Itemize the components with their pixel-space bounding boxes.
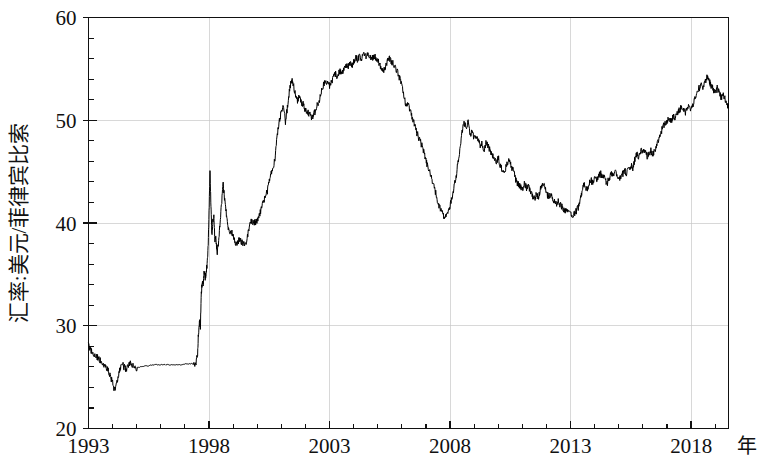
y-tick-label: 50 (56, 109, 77, 133)
gridlines (89, 18, 729, 429)
x-tick-label: 2003 (309, 434, 351, 458)
x-axis-tick-labels: 199319982003200820132018 (68, 434, 713, 458)
x-axis-unit-label: 年 (737, 435, 757, 457)
y-tick-label: 30 (56, 314, 77, 338)
exchange-rate-chart: 2030405060 199319982003200820132018 汇率:美… (0, 0, 762, 460)
y-axis-title: 汇率:美元/菲律宾比索 (7, 123, 31, 324)
x-tick-label: 1998 (188, 434, 230, 458)
y-tick-label: 40 (56, 212, 77, 236)
x-tick-label: 1993 (68, 434, 110, 458)
x-tick-label: 2018 (670, 434, 712, 458)
x-tick-label: 2008 (429, 434, 471, 458)
series-line-usd-php (89, 52, 729, 390)
x-tick-label: 2013 (550, 434, 592, 458)
chart-canvas: 2030405060 199319982003200820132018 汇率:美… (0, 0, 762, 460)
y-axis-tick-labels: 2030405060 (56, 6, 77, 441)
data-series-group (89, 52, 729, 390)
y-tick-label: 60 (56, 6, 77, 30)
